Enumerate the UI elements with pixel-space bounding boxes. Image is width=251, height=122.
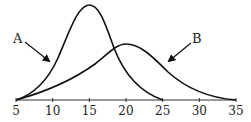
chart: 5 10 15 20 25 30 35 A B (0, 0, 251, 122)
tick-label: 25 (155, 104, 170, 118)
curve-a-arrow (25, 42, 49, 61)
curve-b-label: B (192, 31, 202, 46)
tick-label: 35 (228, 104, 243, 118)
tick-label: 10 (45, 104, 60, 118)
tick-label: 5 (12, 104, 20, 118)
x-axis-tick-labels: 5 10 15 20 25 30 35 (12, 104, 243, 118)
tick-label: 15 (82, 104, 97, 118)
curve-b-arrow (169, 43, 191, 61)
tick-label: 20 (118, 104, 133, 118)
tick-label: 30 (192, 104, 207, 118)
curve-a-label: A (12, 31, 23, 46)
